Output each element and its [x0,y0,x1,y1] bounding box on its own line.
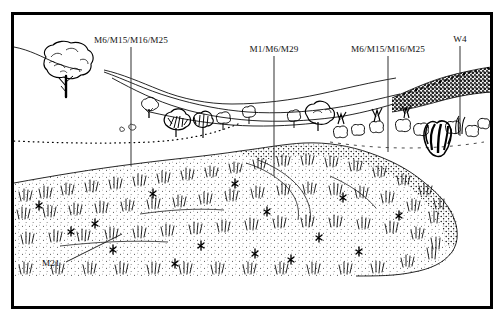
label-m6-m15-m16-m25-right: M6/M15/M16/M25 [351,44,425,54]
label-w4: W4 [453,34,467,44]
label-m1-m6-m29: M1/M6/M29 [250,44,299,54]
label-m21: M21 [42,258,60,268]
landscape-profile-figure: M6/M15/M16/M25 M1/M6/M29 M6/M15/M16/M25 … [0,0,504,321]
landscape-drawing-canvas: M6/M15/M16/M25 M1/M6/M29 M6/M15/M16/M25 … [0,0,504,321]
label-m6-m15-m16-m25-left: M6/M15/M16/M25 [94,35,168,45]
